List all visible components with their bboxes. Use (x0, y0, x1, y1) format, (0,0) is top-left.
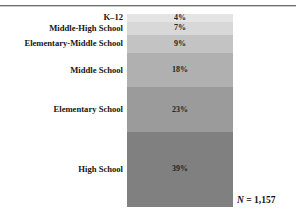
top-divider-rule-shadow (0, 6, 296, 7)
bar-segment-high-school: 39% (127, 132, 233, 207)
sample-size-annotation: N = 1,157 (237, 196, 275, 206)
bar-segment-value-k-12: 4% (174, 14, 186, 22)
bar-segment-k-12: 4% (127, 14, 233, 22)
sample-size-separator: = (244, 195, 254, 205)
category-label-k-12: K–12 (103, 14, 123, 22)
bar-segment-value-middle-high-school: 7% (174, 24, 186, 32)
bar-segment-value-high-school: 39% (172, 165, 188, 173)
sample-size-symbol: N (237, 195, 244, 205)
category-label-high-school: High School (78, 132, 123, 207)
category-label-elementary-middle-school: Elementary-Middle School (24, 35, 123, 52)
category-label-middle-school: Middle School (70, 53, 123, 88)
bar-segment-value-elementary-school: 23% (172, 106, 188, 114)
bar-segment-middle-high-school: 7% (127, 22, 233, 36)
category-label-column: K–12 Middle-High School Elementary-Middl… (0, 14, 123, 207)
category-label-elementary-school: Elementary School (54, 87, 123, 131)
bar-segment-elementary-school: 23% (127, 87, 233, 131)
category-label-middle-high-school: Middle-High School (49, 22, 123, 36)
bar-segment-elementary-middle-school: 9% (127, 35, 233, 52)
bar-segment-value-elementary-middle-school: 9% (174, 40, 186, 48)
stacked-bar-column: 4% 7% 9% 18% 23% 39% (127, 14, 233, 207)
sample-size-value: 1,157 (254, 195, 275, 205)
bar-segment-value-middle-school: 18% (172, 66, 188, 74)
bar-segment-middle-school: 18% (127, 53, 233, 88)
stacked-bar-figure: K–12 Middle-High School Elementary-Middl… (0, 0, 296, 224)
